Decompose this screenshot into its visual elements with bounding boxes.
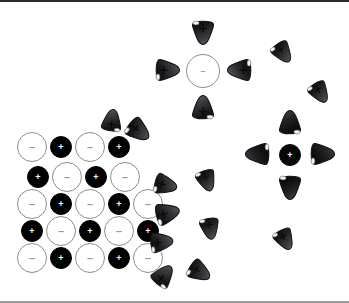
ion-charge-sign: + xyxy=(58,199,63,208)
free-water-molecule xyxy=(182,253,218,290)
lattice-ion-negative: – xyxy=(17,189,47,219)
lattice-ion-negative: – xyxy=(52,162,82,192)
lattice-ion-negative: – xyxy=(17,243,47,273)
hydration-water-molecule xyxy=(188,20,218,46)
lattice-ion-negative: – xyxy=(17,132,47,162)
dissolved-ion-positive: + xyxy=(279,144,301,166)
ion-charge-sign: + xyxy=(87,226,92,235)
hydration-water-molecule xyxy=(155,55,181,85)
ion-charge-sign: + xyxy=(93,172,98,181)
ion-charge-sign: + xyxy=(287,150,292,159)
ion-charge-sign: + xyxy=(29,226,34,235)
hydration-water-molecule xyxy=(275,109,305,135)
ion-charge-sign: + xyxy=(116,142,121,151)
lattice-ion-positive: + xyxy=(108,193,130,215)
top-border-line xyxy=(0,0,349,2)
lattice-ion-positive: + xyxy=(27,166,49,188)
lattice-ion-positive: + xyxy=(108,247,130,269)
dissolved-ion-negative: – xyxy=(186,54,220,88)
hydration-water-molecule xyxy=(244,139,270,169)
ion-charge-sign: + xyxy=(35,172,40,181)
lattice-ion-positive: + xyxy=(50,193,72,215)
free-water-molecule xyxy=(190,165,223,196)
lattice-ion-positive: + xyxy=(21,220,43,242)
free-water-molecule xyxy=(302,76,337,110)
dissolution-diagram: –+–++–+––+–+–+–+–+–+–+– –+ xyxy=(0,0,349,303)
lattice-ion-negative: – xyxy=(75,132,105,162)
free-water-molecule xyxy=(148,227,176,258)
lattice-ion-negative: – xyxy=(75,189,105,219)
ion-charge-sign: + xyxy=(58,142,63,151)
lattice-ion-positive: + xyxy=(50,247,72,269)
lattice-ion-positive: + xyxy=(79,220,101,242)
free-water-molecule xyxy=(265,36,301,71)
hydration-water-molecule xyxy=(310,139,336,169)
ion-charge-sign: – xyxy=(200,66,205,75)
free-water-molecule xyxy=(268,223,303,256)
lattice-ion-positive: + xyxy=(50,136,72,158)
lattice-ion-negative: – xyxy=(75,243,105,273)
ion-charge-sign: + xyxy=(116,199,121,208)
hydration-water-molecule xyxy=(275,175,305,201)
ion-charge-sign: + xyxy=(58,253,63,262)
ion-charge-sign: + xyxy=(116,253,121,262)
free-water-molecule xyxy=(195,215,226,243)
hydration-water-molecule xyxy=(188,94,218,120)
lattice-ion-negative: – xyxy=(104,216,134,246)
lattice-ion-positive: + xyxy=(85,166,107,188)
lattice-ion-negative: – xyxy=(110,162,140,192)
hydration-water-molecule xyxy=(226,55,252,85)
lattice-ion-negative: – xyxy=(46,216,76,246)
